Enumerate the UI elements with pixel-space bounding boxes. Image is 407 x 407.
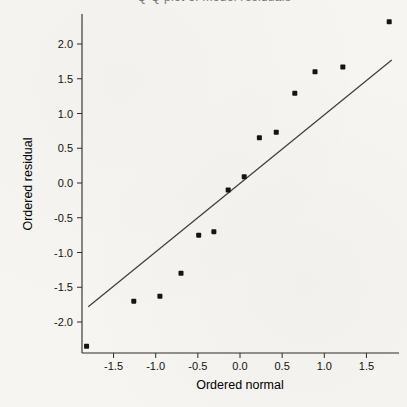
data-point-marker xyxy=(292,91,297,96)
x-tick-label: -1.5 xyxy=(104,360,123,372)
plot-area: -1.5-1.0-0.50.00.51.01.5-2.0-1.5-1.0-0.5… xyxy=(0,0,407,407)
x-tick-label: 0.0 xyxy=(232,360,247,372)
x-tick-label: -1.0 xyxy=(146,360,165,372)
data-point-marker xyxy=(387,19,392,24)
data-point-marker xyxy=(178,271,183,276)
data-point-marker xyxy=(131,299,136,304)
y-tick-label: 1.0 xyxy=(58,108,73,120)
y-tick-label: -2.0 xyxy=(54,316,73,328)
x-tick-label: 1.0 xyxy=(317,360,332,372)
data-point-marker xyxy=(340,64,345,69)
y-tick-label: -1.0 xyxy=(54,247,73,259)
y-tick-label: 0.0 xyxy=(58,177,73,189)
data-point-marker xyxy=(274,130,279,135)
data-point-marker xyxy=(226,187,231,192)
data-point-marker xyxy=(196,233,201,238)
data-point-marker xyxy=(242,174,247,179)
y-tick-label: 0.5 xyxy=(58,142,73,154)
reference-line xyxy=(88,60,391,307)
y-tick-label: -0.5 xyxy=(54,212,73,224)
data-point-marker xyxy=(257,135,262,140)
data-point-marker xyxy=(313,69,318,74)
data-point-marker xyxy=(211,229,216,234)
qq-plot-figure: Q-Q plot of model residuals Ordered resi… xyxy=(0,0,407,407)
x-tick-label: 0.5 xyxy=(275,360,290,372)
x-tick-label: 1.5 xyxy=(359,360,374,372)
y-tick-label: -1.5 xyxy=(54,281,73,293)
data-point-marker xyxy=(157,294,162,299)
x-tick-label: -0.5 xyxy=(188,360,207,372)
y-tick-label: 2.0 xyxy=(58,38,73,50)
data-point-marker xyxy=(84,344,89,349)
x-axis-label: Ordered normal xyxy=(196,378,284,392)
y-tick-label: 1.5 xyxy=(58,73,73,85)
